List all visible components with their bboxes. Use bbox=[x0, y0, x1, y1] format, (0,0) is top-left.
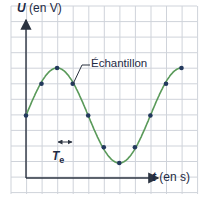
sample-point bbox=[39, 82, 44, 87]
y-axis-label: U (en V) bbox=[17, 1, 62, 15]
sample-period-label: Te bbox=[52, 149, 64, 165]
sample-point bbox=[24, 113, 29, 118]
sample-annotation: Échantillon bbox=[91, 57, 147, 69]
sample-point bbox=[133, 145, 138, 150]
sample-point bbox=[148, 113, 153, 118]
sample-point bbox=[179, 66, 184, 71]
sample-point bbox=[164, 82, 169, 87]
grid bbox=[11, 6, 198, 194]
chart: U (en V) t (en s) Échantillon Te bbox=[0, 0, 204, 201]
sample-point bbox=[86, 113, 91, 118]
sample-point bbox=[117, 161, 122, 166]
x-axis-label: t (en s) bbox=[152, 170, 190, 184]
sample-point bbox=[102, 145, 107, 150]
sample-point bbox=[55, 66, 60, 71]
